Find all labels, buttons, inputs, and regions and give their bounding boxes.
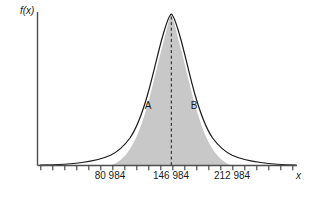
plot-canvas [0, 0, 316, 197]
region-label-b: B [191, 100, 198, 111]
y-axis-label: f(x) [20, 5, 34, 16]
x-tick-label-upper-bound: 212 984 [214, 170, 250, 181]
region-label-a: A [145, 100, 152, 111]
x-axis-label: x [296, 170, 301, 181]
x-tick-label-lower-bound: 80 984 [95, 170, 126, 181]
x-tick-label-mean: 146 984 [153, 170, 189, 181]
distribution-figure: f(x) x 80 984 146 984 212 984 A B [0, 0, 316, 197]
